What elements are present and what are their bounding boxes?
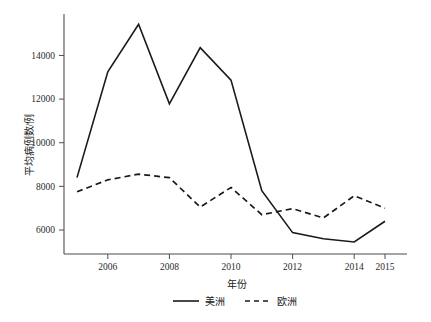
y-tick-label: 8000	[36, 182, 55, 192]
x-axis: 200620082010201220142015	[64, 254, 407, 272]
chart-canvas: 60008000100001200014000 2006200820102012…	[0, 0, 431, 322]
x-tick-label: 2012	[283, 262, 302, 272]
x-tick-label: 2006	[98, 262, 117, 272]
y-tick-label: 6000	[36, 225, 55, 235]
x-axis-title: 年份	[227, 278, 247, 290]
series-line-美洲	[77, 24, 385, 242]
y-axis-title: 平均病例数/例	[23, 114, 35, 177]
x-tick-label: 2008	[160, 262, 179, 272]
series-group	[77, 24, 385, 242]
series-line-欧洲	[77, 174, 385, 218]
y-tick-label: 12000	[31, 94, 55, 104]
legend-label-美洲: 美洲	[205, 295, 225, 307]
x-tick-group: 200620082010201220142015	[98, 254, 394, 272]
y-tick-group: 60008000100001200014000	[31, 51, 64, 236]
line-chart-figure: 60008000100001200014000 2006200820102012…	[0, 0, 431, 322]
chart-legend: 美洲欧洲	[173, 295, 297, 307]
x-tick-label: 2014	[345, 262, 364, 272]
x-tick-label: 2010	[222, 262, 241, 272]
legend-label-欧洲: 欧洲	[277, 296, 297, 307]
y-axis: 60008000100001200014000	[31, 14, 64, 254]
y-tick-label: 14000	[31, 51, 55, 61]
x-tick-label: 2015	[376, 262, 395, 272]
